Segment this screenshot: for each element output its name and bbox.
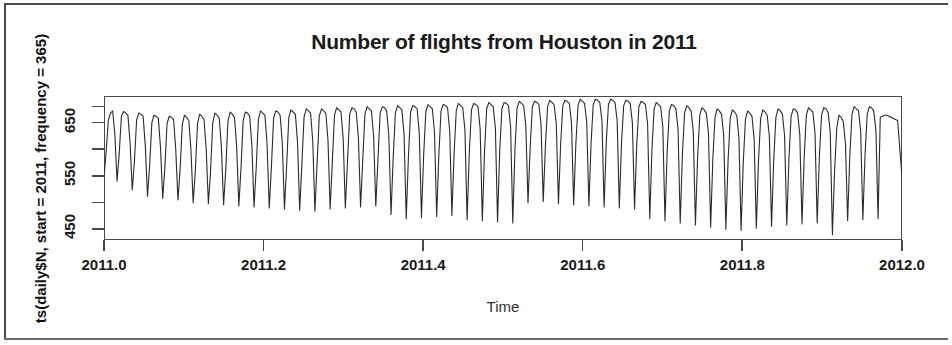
page-frame-top-border [4,3,948,5]
y-axis-tick-label: 550 [61,157,78,191]
x-axis-tick-label: 2011.8 [697,256,787,273]
x-axis-title: Time [104,298,902,315]
x-axis-tick-label: 2012.0 [857,256,947,273]
y-axis-tick-label: 650 [61,103,78,137]
y-axis-minor-tick [92,106,104,108]
y-axis-title: ts(daily$N, start = 2011, frequency = 36… [32,14,49,344]
x-axis-tick-label: 2011.6 [538,256,628,273]
chart-page: Number of flights from Houston in 2011 t… [0,0,952,345]
page-frame-bottom-border [4,338,948,340]
y-axis-tick [92,228,104,230]
x-axis-tick-label: 2011.0 [59,256,149,273]
y-axis-tick [92,122,104,124]
x-axis-tick [263,240,265,251]
y-axis-minor-tick [92,148,104,150]
flights-series-line [104,99,902,234]
x-axis-tick [582,240,584,251]
y-axis-minor-tick [92,202,104,204]
x-axis-tick [422,240,424,251]
x-axis-tick [901,240,903,251]
x-axis-tick [741,240,743,251]
page-frame-left-border [4,3,6,340]
y-axis-tick [92,175,104,177]
x-axis-tick [103,240,105,251]
time-series-line-chart [104,96,902,240]
x-axis-tick-label: 2011.2 [219,256,309,273]
y-axis-tick-label: 450 [61,210,78,244]
x-axis-tick-label: 2011.4 [378,256,468,273]
chart-title: Number of flights from Houston in 2011 [104,30,904,54]
